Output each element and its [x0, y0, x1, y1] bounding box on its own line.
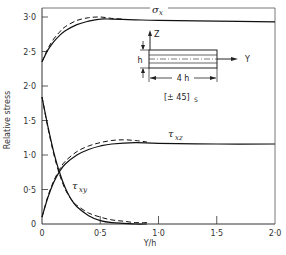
dim-arrow-icon — [141, 68, 145, 73]
y-tick-label: 3·0 — [23, 13, 36, 22]
y-tick-label: 0·5 — [23, 186, 36, 195]
series-line-xz-dashed — [42, 140, 147, 217]
series-line-xy — [42, 97, 147, 224]
tau-xz-label: τ xz — [168, 128, 183, 142]
dim-arrow-icon — [210, 76, 216, 80]
x-tick-label: 1·0 — [152, 229, 165, 238]
y-arrow-icon — [231, 57, 238, 61]
y-axis-ticks: 00·51·01·52·02·53·0 — [23, 13, 48, 229]
sigma-x-label: σ x — [152, 4, 163, 17]
x-tick-label: 1·5 — [210, 229, 223, 238]
y-tick-label: 1·0 — [23, 151, 36, 160]
z-arrow-icon — [148, 30, 152, 36]
series-line-x-dashed — [42, 17, 124, 62]
x-tick-label: 2·0 — [269, 229, 282, 238]
z-axis-label: Z — [154, 30, 160, 39]
dim-arrow-icon — [150, 76, 156, 80]
y-tick-label: 0 — [31, 220, 36, 229]
width-label: 4 h — [177, 74, 190, 83]
svg-text:xy: xy — [79, 186, 88, 194]
laminate-inset: Z Y h 4 h [± 45] S — [137, 30, 250, 103]
y-axis-label-inset: Y — [244, 55, 250, 64]
layup-label: [± 45] — [164, 93, 190, 102]
svg-text:xz: xz — [175, 134, 183, 142]
svg-text:τ: τ — [72, 180, 78, 191]
series-group — [42, 17, 275, 224]
y-tick-label: 2·5 — [23, 48, 36, 57]
y-tick-label: 1·5 — [23, 117, 36, 126]
x-axis-ticks: 00·51·01·52·0 — [39, 216, 281, 238]
thickness-label: h — [137, 56, 142, 65]
plot-frame — [42, 8, 275, 224]
x-tick-label: 0·5 — [94, 229, 107, 238]
dim-arrow-icon — [141, 45, 145, 50]
svg-text:x: x — [159, 9, 163, 17]
x-axis-label: Y/h — [143, 239, 157, 248]
x-tick-label: 0 — [39, 229, 44, 238]
svg-text:τ: τ — [168, 128, 174, 139]
tau-xy-label: τ xy — [72, 180, 88, 194]
y-axis-label: Relative stress — [3, 91, 12, 149]
series-line-xy-dashed — [42, 97, 147, 223]
layup-subscript: S — [194, 96, 198, 103]
series-line-x — [42, 19, 275, 62]
stress-chart: 00·51·01·52·0 00·51·01·52·02·53·0 Y/h Re… — [0, 0, 286, 255]
y-tick-label: 2·0 — [23, 82, 36, 91]
